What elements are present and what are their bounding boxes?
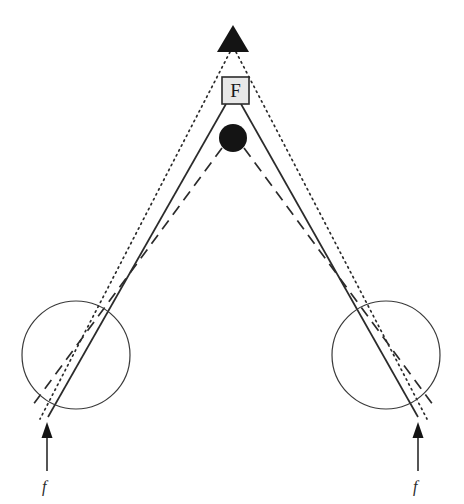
dotted-ray-right [236, 52, 427, 419]
solid-ray-left [48, 104, 226, 417]
left-arrow-head-icon [42, 422, 53, 438]
f-box: F [222, 77, 249, 104]
right-focal-label: f [413, 478, 420, 496]
point-object-circle [219, 124, 247, 152]
left-focal-label: f [42, 478, 49, 496]
dotted-ray-left [40, 52, 230, 419]
ray-diagram: F f f [0, 0, 464, 504]
diagram-canvas: F f f [0, 0, 464, 504]
left-lens-circle [22, 301, 130, 409]
right-arrow-head-icon [413, 422, 424, 438]
dashed-ray-group [30, 148, 436, 409]
triangle-source-icon [217, 25, 249, 52]
dotted-ray-group [40, 52, 427, 419]
solid-ray-right [241, 104, 418, 417]
right-focal-arrow [413, 422, 424, 471]
left-focal-arrow [42, 422, 53, 471]
f-box-label: F [230, 80, 241, 101]
right-lens-circle [332, 301, 440, 409]
